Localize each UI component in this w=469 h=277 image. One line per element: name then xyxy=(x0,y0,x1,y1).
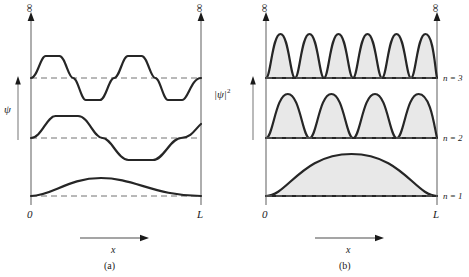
panel-a-canvas xyxy=(0,0,235,277)
infinity-symbol-right-b: ∞ xyxy=(429,4,441,13)
state-label-n2: n = 2 xyxy=(443,134,463,143)
infinity-symbol-left-b: ∞ xyxy=(258,4,270,13)
state-label-n3: n = 3 xyxy=(443,74,463,83)
probability-density-n2 xyxy=(266,94,437,138)
x-axis-label-b: x xyxy=(346,245,350,255)
width-label-b: L xyxy=(433,209,439,220)
infinity-symbol-left-a: ∞ xyxy=(23,4,35,13)
state-label-n1: n = 1 xyxy=(443,192,463,201)
psi-squared-axis-label-exponent: 2 xyxy=(227,87,231,95)
panel-b-probability-densities: ∞ ∞ |ψ|2 n = 3 n = 2 n = 1 0 L x (b) xyxy=(235,0,469,277)
panel-caption-a: (a) xyxy=(104,261,115,271)
psi-squared-axis-label: |ψ|2 xyxy=(214,88,230,100)
psi-axis-arrowhead xyxy=(15,76,21,85)
origin-label-b: 0 xyxy=(262,209,268,220)
psi-axis-label-text: ψ xyxy=(4,103,11,115)
panel-a-wavefunctions: ∞ ∞ ψ 0 L x (a) xyxy=(0,0,235,277)
panel-b-canvas xyxy=(235,0,469,277)
left-wall-arrowhead-b xyxy=(263,12,270,21)
psi-squared-axis-label-text: |ψ| xyxy=(214,88,227,100)
x-axis-label-a: x xyxy=(111,245,115,255)
psi-axis-label: ψ xyxy=(4,104,11,115)
right-wall-arrowhead-a xyxy=(198,12,205,21)
panel-caption-b: (b) xyxy=(339,261,351,271)
psi2-axis-arrowhead xyxy=(250,76,256,85)
width-label-a: L xyxy=(197,209,203,220)
probability-density-n1 xyxy=(266,154,437,196)
probability-density-n3 xyxy=(266,34,437,78)
wavefunction-curve-n1 xyxy=(31,178,201,196)
origin-label-a: 0 xyxy=(27,209,33,220)
right-wall-arrowhead-b xyxy=(434,12,441,21)
x-axis-arrowhead-b xyxy=(375,235,384,241)
x-axis-arrowhead-a xyxy=(140,235,149,241)
infinity-symbol-right-a: ∞ xyxy=(193,4,205,13)
left-wall-arrowhead-a xyxy=(28,12,35,21)
infinite-well-figure: ∞ ∞ ψ 0 L x (a) xyxy=(0,0,469,277)
